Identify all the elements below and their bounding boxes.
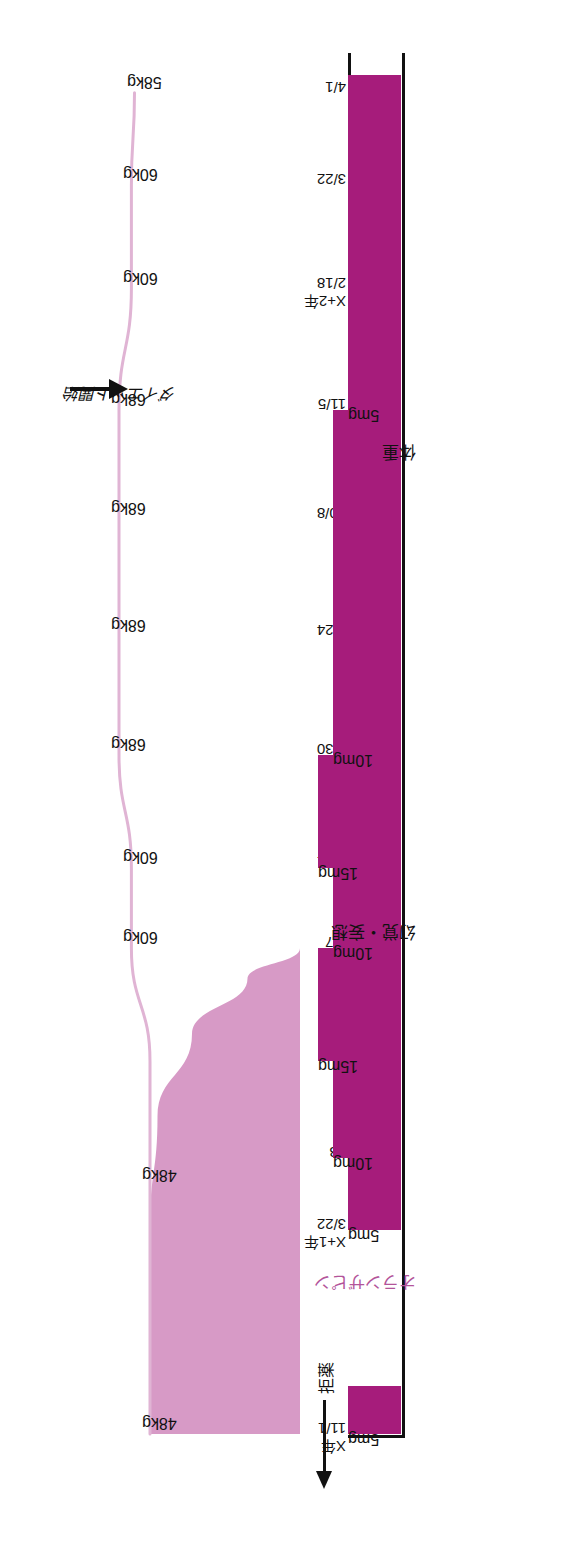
axis-baseline [402,53,405,1438]
weight-label-9: 60kg [123,269,158,287]
axis-year-label: X+1年 [304,1233,346,1254]
axis-tick-3-22: 3/22 [317,171,346,188]
diet-start-label: ダイエット開始 [64,383,176,407]
weight-label-4: 60kg [123,848,158,866]
plot-area: 11/1X年3/22X+1年234/95/75/217/309/2410/811… [0,0,588,1546]
weight-label-0: 48kg [142,1414,177,1432]
dose-bar-2 [333,1061,401,1158]
weight-label-10: 60kg [123,165,158,183]
weight-label-5: 68kg [111,735,146,753]
weight-label-7: 68kg [111,499,146,517]
weight-label-11: 58kg [127,73,162,91]
dose-label-7: 5mg [348,406,379,424]
dose-label-2: 10mg [333,1154,373,1172]
weight-line [0,0,588,1546]
dose-bar-7 [348,75,401,410]
dose-label-5: 15mg [318,864,358,882]
refusal-label: 拒薬 [313,1362,337,1394]
row-label-weight: 体重 [382,441,416,466]
dose-bar-3 [318,948,401,1061]
weight-label-3: 60kg [123,928,158,946]
dose-label-1: 5mg [348,1226,379,1244]
axis-year-label: X+2年 [304,292,346,313]
chart-stage: 11/1X年3/22X+1年234/95/75/217/309/2410/811… [0,0,588,1546]
chart-page: 症 例：21歳、女性 診断名：統合失調症 11/1X年3/22X+1年234/9… [0,0,588,1546]
refusal-arrow-icon [323,1400,326,1472]
dose-bar-0 [348,1386,401,1434]
weight-label-1: 48kg [142,1166,177,1184]
dose-label-4: 10mg [333,944,373,962]
weight-label-6: 68kg [111,616,146,634]
row-label-hallucination: 幻覚・妄想 [331,921,416,946]
dose-bar-5 [318,755,401,868]
dose-label-0: 5mg [348,1430,379,1448]
dose-label-6: 10mg [333,751,373,769]
axis-tick-2-18: 2/18X+2年 [317,275,346,292]
axis-tick-3-22: 3/22X+1年 [317,1216,346,1233]
dose-label-3: 15mg [318,1057,358,1075]
row-label-olanzapine: オランザピン [314,1271,416,1296]
axis-tick-4-1: 4/1 [325,79,346,96]
hallucination-band [0,0,588,1546]
